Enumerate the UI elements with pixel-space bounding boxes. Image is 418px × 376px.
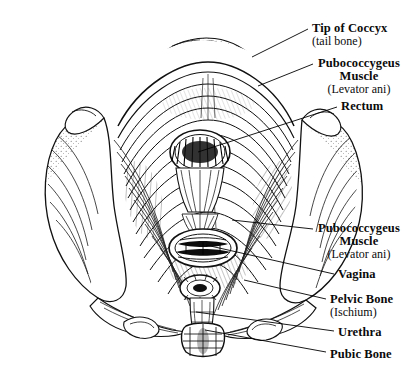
label-tip-of-coccyx: Tip of Coccyx(tail bone) bbox=[312, 22, 387, 47]
label-pubic-bone-primary: Pubic Bone bbox=[330, 348, 392, 361]
label-pubococcygeus-muscle-upper-primary-line2: Muscle bbox=[318, 70, 400, 83]
label-pelvic-bone-secondary: (Ischium) bbox=[330, 306, 393, 318]
label-pelvic-bone: Pelvic Bone(Ischium) bbox=[330, 293, 393, 318]
label-pubococcygeus-muscle-lower-primary-line2: Muscle bbox=[318, 235, 400, 248]
label-pubococcygeus-muscle-upper-primary: Pubococcygeus bbox=[318, 57, 400, 70]
label-pubococcygeus-muscle-lower-secondary: (Levator ani) bbox=[318, 248, 400, 260]
pubic-bone bbox=[182, 323, 225, 357]
label-tip-of-coccyx-secondary: (tail bone) bbox=[312, 35, 387, 47]
label-pubococcygeus-muscle-upper-secondary: (Levator ani) bbox=[318, 83, 400, 95]
label-vagina-primary: Vagina bbox=[338, 268, 376, 281]
label-pelvic-bone-primary: Pelvic Bone bbox=[330, 293, 393, 306]
label-vagina: Vagina bbox=[338, 268, 376, 281]
label-pubococcygeus-muscle-upper: PubococcygeusMuscle(Levator ani) bbox=[318, 57, 400, 95]
label-urethra-primary: Urethra bbox=[338, 326, 382, 339]
vagina-orifice bbox=[169, 229, 237, 267]
label-pubic-bone: Pubic Bone bbox=[330, 348, 392, 361]
label-urethra: Urethra bbox=[338, 326, 382, 339]
label-pubococcygeus-muscle-lower-primary: Pubococcygeus bbox=[318, 222, 400, 235]
label-tip-of-coccyx-primary: Tip of Coccyx bbox=[312, 22, 387, 35]
label-rectum: Rectum bbox=[341, 100, 383, 113]
label-pubococcygeus-muscle-lower: PubococcygeusMuscle(Levator ani) bbox=[318, 222, 400, 260]
label-rectum-primary: Rectum bbox=[341, 100, 383, 113]
